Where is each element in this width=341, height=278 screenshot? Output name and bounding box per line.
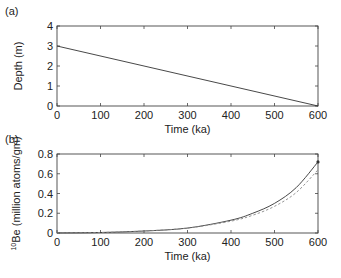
y-tick-label: 0.6 <box>38 168 53 180</box>
axes-box <box>57 154 318 233</box>
x-tick-label: 300 <box>178 236 196 248</box>
y-axis-label: Depth (m) <box>12 42 24 91</box>
axes-box <box>57 26 318 106</box>
chart-figure: (a)010020030040050060001234Time (ka)Dept… <box>0 0 341 278</box>
series-depth <box>57 46 318 106</box>
x-tick-label: 0 <box>54 109 60 121</box>
x-tick-label: 200 <box>135 109 153 121</box>
y-tick-label: 3 <box>47 40 53 52</box>
panel-b: (b)010020030040050060000.20.40.60.8Time … <box>5 133 327 262</box>
x-tick-label: 600 <box>309 236 327 248</box>
x-axis-label: Time (ka) <box>164 123 210 135</box>
x-tick-label: 0 <box>54 236 60 248</box>
x-tick-label: 100 <box>91 109 109 121</box>
y-tick-label: 1 <box>47 80 53 92</box>
y-tick-label: 0.8 <box>38 148 53 160</box>
panel-label: (a) <box>5 5 18 17</box>
y-tick-label: 4 <box>47 20 53 32</box>
x-axis-label: Time (ka) <box>164 250 210 262</box>
x-tick-label: 500 <box>265 109 283 121</box>
y-tick-label: 0.4 <box>38 188 53 200</box>
x-tick-label: 400 <box>222 109 240 121</box>
panel-a: (a)010020030040050060001234Time (ka)Dept… <box>5 5 327 135</box>
x-tick-label: 300 <box>178 109 196 121</box>
series-solid <box>57 162 318 233</box>
y-tick-label: 0.2 <box>38 207 53 219</box>
data-marker <box>316 160 319 163</box>
x-tick-label: 200 <box>135 236 153 248</box>
x-tick-label: 100 <box>91 236 109 248</box>
y-tick-label: 2 <box>47 60 53 72</box>
x-tick-label: 400 <box>222 236 240 248</box>
y-axis-label: 10Be (million atoms/gm) <box>10 136 22 250</box>
x-tick-label: 600 <box>309 109 327 121</box>
y-tick-label: 0 <box>47 100 53 112</box>
x-tick-label: 500 <box>265 236 283 248</box>
series-dashed <box>57 170 318 233</box>
y-tick-label: 0 <box>47 227 53 239</box>
